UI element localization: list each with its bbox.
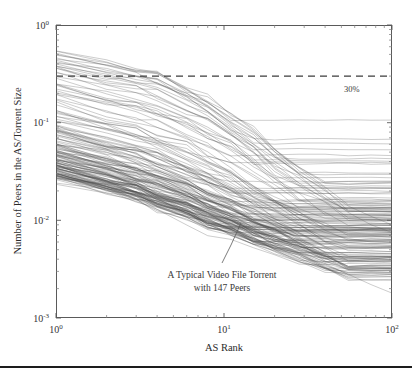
annotation-line-1: A Typical Video File Torrent	[168, 270, 277, 280]
y-axis-title: Number of Peers in the AS/Torrent Size	[12, 87, 23, 255]
reference-line-label: 30%	[344, 84, 360, 94]
log-log-chart: 30% 100101102 10010-110-210-3 AS Rank Nu…	[0, 0, 412, 373]
annotation-line-2: with 147 Peers	[194, 283, 251, 293]
figure-container: 30% 100101102 10010-110-210-3 AS Rank Nu…	[0, 0, 412, 373]
bottom-divider-rule	[0, 366, 412, 368]
x-axis-title: AS Rank	[205, 342, 244, 353]
